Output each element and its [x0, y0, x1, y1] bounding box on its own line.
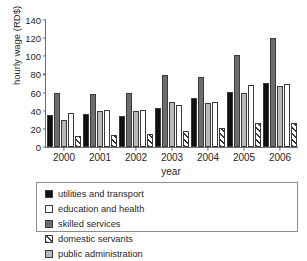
x-axis-tick-mark: [171, 147, 172, 151]
legend-label: utilities and transport: [58, 189, 144, 199]
bar: [133, 111, 139, 147]
chart-legend: utilities and transport education and he…: [36, 182, 298, 232]
bar: [248, 85, 254, 147]
clipped-title-fragment: [36, 0, 216, 4]
x-axis-tick-mark: [279, 147, 280, 151]
diagonal-hatch-swatch-icon: [45, 235, 53, 243]
x-axis-tick-label: 2000: [53, 152, 75, 163]
bar: [176, 105, 182, 147]
bar: [111, 135, 117, 147]
x-axis-tick-mark: [99, 147, 100, 151]
bar-group-2002: 2002: [118, 20, 154, 147]
legend-label: domestic servants: [58, 234, 133, 244]
legend-item-public-administration: public administration: [45, 246, 187, 261]
bar: [140, 110, 146, 147]
bar: [54, 93, 60, 147]
bar: [97, 111, 103, 147]
x-axis-tick-label: 2003: [161, 152, 183, 163]
x-axis-tick-label: 2001: [89, 152, 111, 163]
bar: [119, 116, 125, 147]
bar: [47, 115, 53, 147]
bar: [241, 93, 247, 147]
x-axis-tick-label: 2006: [269, 152, 291, 163]
bar: [234, 55, 240, 147]
plot-area: 020406080100120140 200020012002200320042…: [45, 20, 298, 148]
bar: [183, 131, 189, 147]
bar: [227, 92, 233, 147]
bar: [126, 93, 132, 147]
solid-black-swatch-icon: [45, 190, 53, 198]
light-gray-swatch-icon: [45, 250, 53, 258]
y-axis-label: hourly wage (RD$): [11, 0, 22, 102]
x-axis-tick-mark: [63, 147, 64, 151]
bar: [263, 83, 269, 147]
x-axis-tick-mark: [135, 147, 136, 151]
x-axis-label: year: [45, 166, 297, 177]
bar: [162, 75, 168, 147]
bar-chart-figure: hourly wage (RD$) 020406080100120140 200…: [0, 0, 307, 239]
x-axis-tick-mark: [207, 147, 208, 151]
dark-gray-swatch-icon: [45, 220, 53, 228]
x-axis-tick-label: 2005: [233, 152, 255, 163]
x-axis-tick-label: 2002: [125, 152, 147, 163]
bar-group-2003: 2003: [154, 20, 190, 147]
bar: [291, 123, 297, 147]
bar-group-2005: 2005: [226, 20, 262, 147]
bar: [90, 94, 96, 147]
x-axis-tick-mark: [243, 147, 244, 151]
bar: [68, 113, 74, 147]
bar-group-2004: 2004: [190, 20, 226, 147]
bar: [104, 110, 110, 147]
bar: [198, 77, 204, 147]
bar: [205, 103, 211, 147]
bar: [219, 128, 225, 147]
bar: [212, 102, 218, 147]
bar-group-2000: 2000: [46, 20, 82, 147]
bar: [191, 98, 197, 147]
bar: [61, 120, 67, 147]
bar: [147, 134, 153, 147]
bar: [169, 102, 175, 147]
bar: [83, 114, 89, 147]
bar: [284, 84, 290, 148]
bar: [155, 108, 161, 147]
bar-group-2001: 2001: [82, 20, 118, 147]
legend-item-education-and-health: education and health: [45, 201, 157, 216]
legend-label: education and health: [58, 204, 144, 214]
legend-label: skilled services: [58, 219, 121, 229]
x-axis-tick-label: 2004: [197, 152, 219, 163]
legend-label: public administration: [58, 249, 143, 259]
bar: [75, 136, 81, 147]
bar-group-2006: 2006: [262, 20, 298, 147]
bar: [270, 38, 276, 147]
bar: [277, 86, 283, 147]
bar-groups: 2000200120022003200420052006: [46, 20, 298, 147]
bar: [255, 123, 261, 147]
legend-item-skilled-services: skilled services: [45, 216, 187, 231]
white-swatch-icon: [45, 205, 53, 213]
legend-item-domestic-servants: domestic servants: [45, 231, 157, 246]
legend-item-utilities-and-transport: utilities and transport: [45, 186, 187, 201]
